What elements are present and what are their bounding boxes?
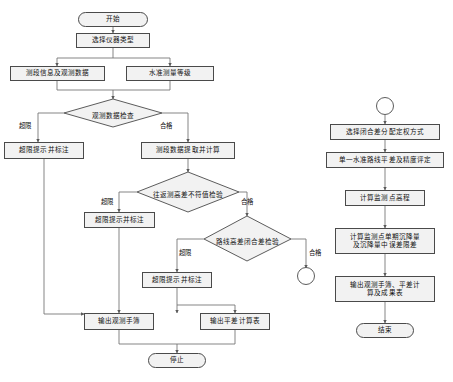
node-level-grade[interactable]: 水准测量等级 bbox=[126, 66, 214, 81]
node-over-limit-note-2[interactable]: 超限提示并标注 bbox=[84, 212, 155, 228]
node-output-results[interactable]: 输出观测手簿、平差计 算及成果表 bbox=[335, 276, 435, 302]
node-single-route-adjust[interactable]: 单一水准路线平差及精度评定 bbox=[326, 152, 444, 168]
offpage-connector-in bbox=[377, 98, 394, 115]
branch-label-pass-1: 合格 bbox=[160, 121, 172, 130]
node-over-limit-note-3[interactable]: 超限提示并标注 bbox=[142, 272, 212, 288]
branch-label-pass-3: 合格 bbox=[309, 248, 321, 257]
node-output-field-book[interactable]: 输出观测手簿 bbox=[84, 313, 154, 330]
node-output-adjustment-table[interactable]: 输出平差计算表 bbox=[200, 313, 270, 330]
node-select-weight-method[interactable]: 选择闭合差分配定权方式 bbox=[330, 124, 440, 140]
branch-label-over-limit-3: 超限 bbox=[179, 248, 191, 257]
offpage-connector-out bbox=[298, 268, 315, 285]
flowchart-canvas: 开始 选择仪器类型 测段信息及观测数据 水准测量等级 观测数据检查 超限提示并标… bbox=[0, 0, 453, 382]
decision-check-closure[interactable] bbox=[204, 216, 291, 261]
node-select-instrument[interactable]: 选择仪器类型 bbox=[76, 33, 150, 48]
decision-check-round-trip[interactable] bbox=[137, 172, 239, 212]
branch-label-over-limit-2: 超限 bbox=[101, 197, 113, 206]
decision-check-obs-data[interactable] bbox=[64, 99, 162, 127]
node-extract-calc[interactable]: 测段数据提取并计算 bbox=[141, 142, 235, 159]
branch-label-over-limit-1: 超限 bbox=[19, 121, 31, 130]
node-end[interactable]: 结束 bbox=[356, 323, 414, 338]
node-start[interactable]: 开始 bbox=[78, 12, 148, 27]
node-calc-point-elevation[interactable]: 计算监测点高程 bbox=[345, 190, 425, 206]
node-section-info[interactable]: 测段信息及观测数据 bbox=[10, 66, 105, 81]
node-over-limit-note-1[interactable]: 超限提示并标注 bbox=[4, 142, 84, 159]
node-calc-settlement[interactable]: 计算监测点单期沉降量 及沉降量中误差限差 bbox=[335, 228, 435, 254]
branch-label-pass-2: 合格 bbox=[241, 197, 253, 206]
node-stop[interactable]: 停止 bbox=[148, 353, 206, 368]
